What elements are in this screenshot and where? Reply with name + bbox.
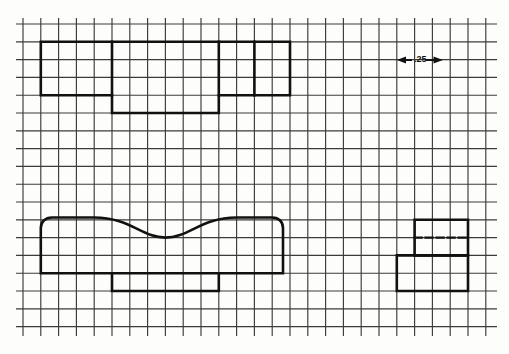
dimension-value-label: .25: [414, 54, 427, 64]
engineering-drawing-canvas: [0, 0, 509, 354]
drawing-page: .25: [0, 0, 509, 354]
